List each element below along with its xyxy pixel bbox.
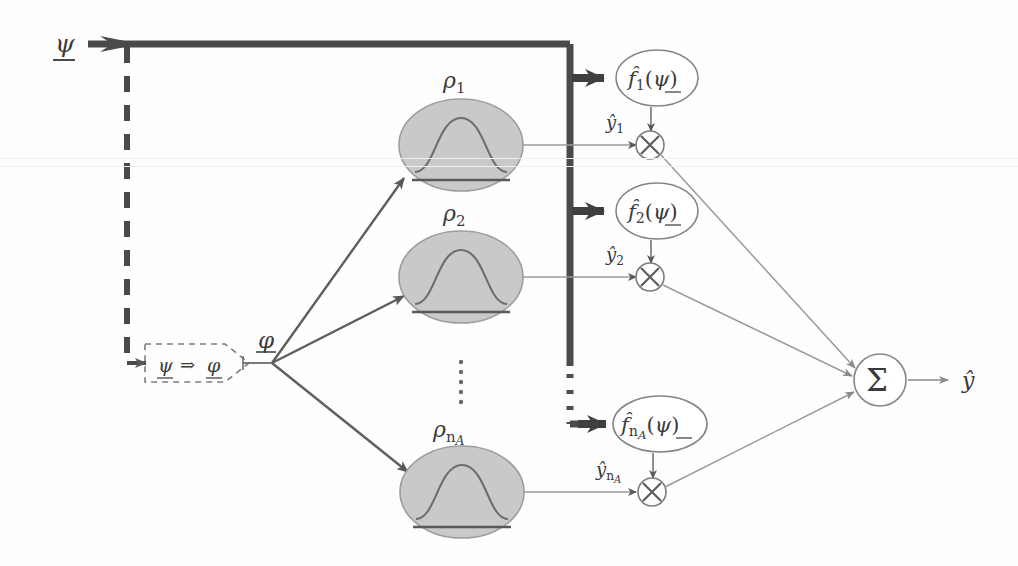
product-node-2[interactable]	[636, 263, 664, 291]
ellipsis-dot	[459, 360, 463, 364]
ellipsis-dot	[459, 370, 463, 374]
transform-arrow-label: ⇒	[180, 354, 195, 375]
function-labels-group: f̂1(ψ) f̂2(ψ) f̂nA(ψ)	[619, 66, 692, 442]
basis-node-1[interactable]	[399, 99, 523, 191]
transform-block-label-group: ψ ⇒ φ	[157, 354, 222, 378]
basis-node-na[interactable]	[400, 446, 524, 538]
basis-node-2[interactable]	[399, 231, 523, 323]
output-label: ŷ	[961, 368, 975, 393]
function-node-1-label: f̂1(ψ)	[626, 66, 678, 93]
diagram-svg: ψ ψ ⇒ φ φ ρ1 ρ2 ρnA f̂1(ψ) f̂2(ψ) f̂nA(	[0, 0, 1018, 566]
ellipsis-dot	[459, 400, 463, 404]
input-label: ψ	[55, 29, 75, 58]
basis-node-na-label: ρnA	[432, 417, 465, 448]
intermediate-output-2-label: ŷ2	[605, 244, 624, 268]
basis-node-na-ellipse	[400, 446, 524, 538]
fanout-arrow-to-rho-1	[272, 178, 404, 363]
product-1-to-sum-line	[661, 155, 855, 368]
ellipsis-dot	[459, 380, 463, 384]
basis-node-2-ellipse	[399, 231, 523, 323]
diagram-canvas: ψ ψ ⇒ φ φ ρ1 ρ2 ρnA f̂1(ψ) f̂2(ψ) f̂nA(	[0, 0, 1018, 566]
fanout-label-group: φ	[258, 327, 275, 353]
psi-dashed-branch-group	[127, 47, 146, 363]
intermediate-output-na-label: ŷnA	[595, 459, 621, 485]
input-label-group: ψ	[53, 29, 75, 60]
fanout-label: φ	[258, 327, 275, 353]
intermediate-output-1-label: ŷ1	[605, 112, 624, 136]
transform-to-label: φ	[207, 354, 221, 376]
fanout-arrow-to-rho-2	[272, 296, 404, 363]
sum-node-symbol: Σ	[866, 362, 888, 398]
function-node-2-label: f̂2(ψ)	[626, 199, 678, 226]
fanout-arrow-to-rho-na	[272, 363, 408, 472]
transform-from-label: ψ	[158, 354, 174, 376]
product-2-to-sum-line	[663, 285, 852, 376]
bus-to-function-arrows	[572, 78, 606, 424]
product-node-1[interactable]	[636, 131, 664, 159]
fanout-arrows-group	[272, 178, 408, 472]
phi-fanout-group	[243, 352, 276, 370]
basis-to-product-lines	[523, 145, 636, 492]
product-node-na[interactable]	[638, 478, 666, 506]
basis-column-ellipsis	[459, 360, 463, 404]
basis-node-1-ellipse	[399, 99, 523, 191]
ellipsis-dot	[459, 390, 463, 394]
basis-node-2-label: ρ2	[442, 201, 465, 230]
basis-node-1-label: ρ1	[442, 68, 465, 97]
